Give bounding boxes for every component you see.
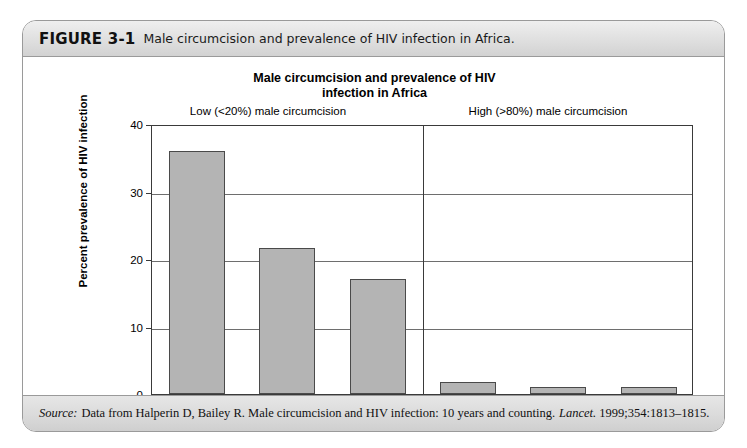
chart-title-line-1: Male circumcision and prevalence of HIV [23, 71, 725, 86]
chart-area: Male circumcision and prevalence of HIV … [23, 57, 725, 397]
bar [621, 387, 677, 394]
y-axis-tick-label: 30 [113, 187, 143, 199]
chart-title: Male circumcision and prevalence of HIV … [23, 71, 725, 101]
plot-area [151, 125, 693, 395]
source-label: Source: [39, 406, 77, 421]
figure-caption: Male circumcision and prevalence of HIV … [143, 31, 514, 46]
group-label-low: Low (<20%) male circumcision [143, 105, 393, 117]
source-text: Data from Halperin D, Bailey R. Male cir… [81, 406, 555, 421]
gridline [152, 329, 692, 330]
y-axis-tick-label: 20 [113, 254, 143, 266]
group-label-high: High (>80%) male circumcision [423, 105, 673, 117]
y-axis-tick-label: 10 [113, 322, 143, 334]
gridline [152, 261, 692, 262]
group-divider [423, 126, 424, 394]
figure-box: FIGURE 3-1 Male circumcision and prevale… [22, 20, 725, 432]
bar [350, 279, 406, 394]
bar [169, 151, 225, 394]
y-axis-tick-label: 40 [113, 119, 143, 131]
figure-footer: Source: Data from Halperin D, Bailey R. … [23, 395, 724, 431]
gridline [152, 194, 692, 195]
figure-header: FIGURE 3-1 Male circumcision and prevale… [23, 21, 724, 57]
bar [530, 387, 586, 394]
source-journal: Lancet. [559, 406, 596, 421]
figure-number: FIGURE 3-1 [39, 30, 135, 48]
bar [440, 382, 496, 394]
bar [259, 248, 315, 394]
chart-title-line-2: infection in Africa [23, 86, 725, 101]
source-citation: 1999;354:1813–1815. [599, 406, 709, 421]
y-axis-title: Percent prevalence of HIV infection [77, 91, 89, 291]
